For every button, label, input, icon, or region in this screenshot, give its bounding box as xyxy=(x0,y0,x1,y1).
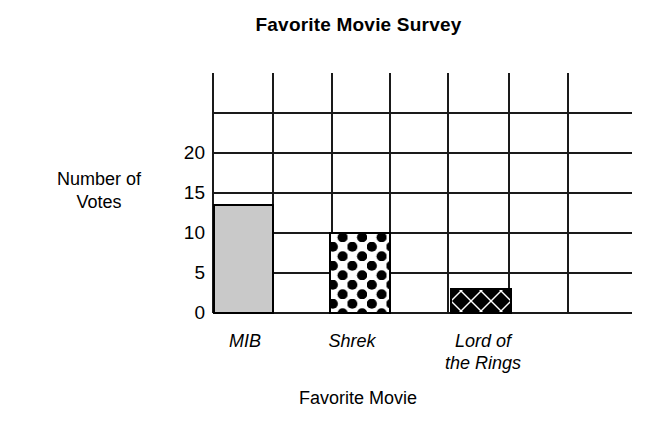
bar-mib xyxy=(214,205,273,313)
bar-lotr xyxy=(451,289,511,313)
x-axis-title: Favorite Movie xyxy=(213,388,503,409)
y-tick-0: 0 xyxy=(145,303,205,322)
plot-area xyxy=(213,73,630,313)
y-axis-title-line1: Number of xyxy=(57,169,141,189)
x-tick-mib: MIB xyxy=(205,330,285,352)
y-tick-10: 10 xyxy=(145,223,205,242)
grid-lines xyxy=(211,71,636,319)
y-tick-5: 5 xyxy=(145,263,205,282)
x-tick-lotr-line2: the Rings xyxy=(423,352,543,374)
x-tick-lotr: Lord of the Rings xyxy=(423,330,543,374)
x-tick-mib-line1: MIB xyxy=(229,331,261,351)
x-axis-tick-labels: MIB Shrek Lord of the Rings xyxy=(213,330,630,390)
y-axis-tick-labels: 0 5 10 15 20 xyxy=(143,73,205,313)
y-tick-20: 20 xyxy=(145,143,205,162)
x-tick-shrek: Shrek xyxy=(302,330,402,352)
x-tick-shrek-line1: Shrek xyxy=(328,331,375,351)
y-tick-15: 15 xyxy=(145,183,205,202)
bar-chart: Favorite Movie Survey Number of Votes 0 … xyxy=(0,0,667,424)
bar-shrek xyxy=(330,233,390,313)
chart-title: Favorite Movie Survey xyxy=(0,14,667,36)
bars xyxy=(214,205,511,313)
x-tick-lotr-line1: Lord of xyxy=(455,331,511,351)
